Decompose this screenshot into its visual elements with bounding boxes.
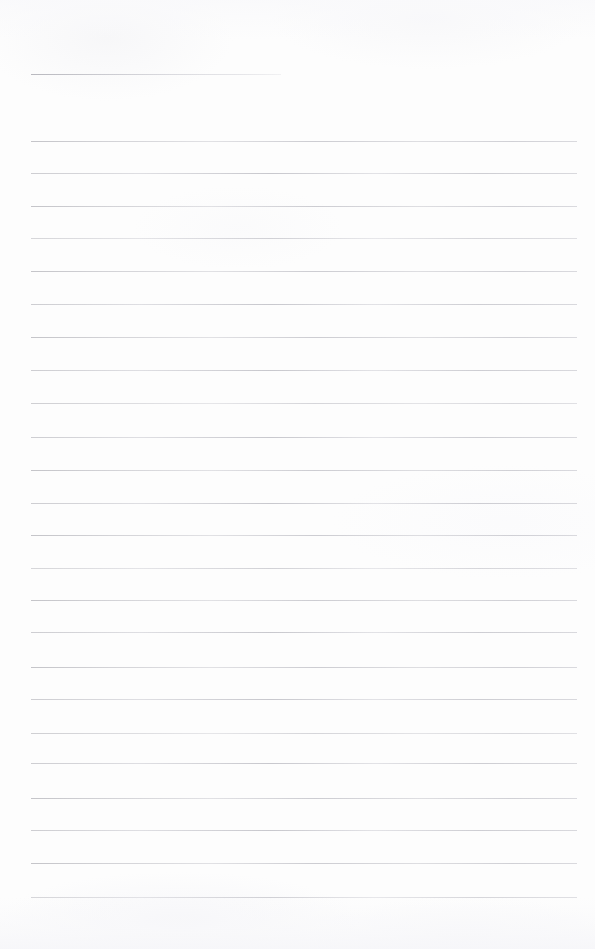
ruled-line[interactable] — [31, 271, 577, 272]
ruled-line[interactable] — [31, 600, 577, 601]
ruled-line[interactable] — [31, 798, 577, 799]
ruled-line[interactable] — [31, 173, 577, 174]
ruled-line[interactable] — [31, 337, 577, 338]
ruled-line[interactable] — [31, 763, 577, 764]
ruled-line[interactable] — [31, 667, 577, 668]
title-rule[interactable] — [31, 74, 281, 75]
ruled-line[interactable] — [31, 437, 577, 438]
ruled-line[interactable] — [31, 370, 577, 371]
ruled-line[interactable] — [31, 503, 577, 504]
ruled-line[interactable] — [31, 830, 577, 831]
ruled-line[interactable] — [31, 568, 577, 569]
ruled-line[interactable] — [31, 141, 577, 142]
ruled-line[interactable] — [31, 632, 577, 633]
ruled-line[interactable] — [31, 699, 577, 700]
page-top-shading — [0, 0, 595, 40]
ruled-line[interactable] — [31, 897, 577, 898]
ruled-line[interactable] — [31, 535, 577, 536]
ruled-line[interactable] — [31, 206, 577, 207]
ruled-line[interactable] — [31, 733, 577, 734]
page-bottom-shading — [0, 897, 595, 949]
ruled-line[interactable] — [31, 863, 577, 864]
ruled-line[interactable] — [31, 304, 577, 305]
ruled-line[interactable] — [31, 238, 577, 239]
ruled-line[interactable] — [31, 403, 577, 404]
ruled-line[interactable] — [31, 470, 577, 471]
paper-page — [0, 0, 595, 949]
